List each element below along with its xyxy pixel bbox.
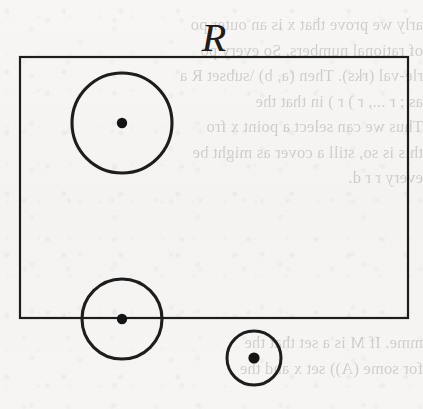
small-circle-center-point [248,352,259,363]
figure-canvas: arly we prove that x is an outer po of r… [0,0,423,409]
medium-circle-center-point [117,314,127,324]
large-circle-center-point [117,118,127,128]
region-diagram [0,0,423,409]
region-label-R: R [202,18,226,58]
